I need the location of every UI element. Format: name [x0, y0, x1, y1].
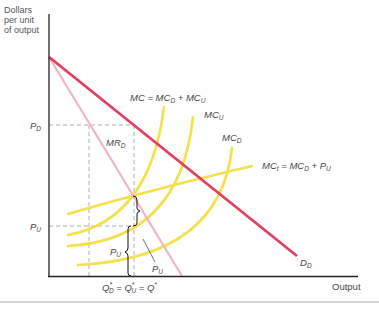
mc-downstream-curve [78, 148, 232, 265]
pu-label: PU [30, 221, 41, 233]
quantity-label: Q*D = Q*U = Q* [102, 281, 157, 294]
marginal-revenue-line [49, 57, 182, 276]
transfer-pricing-diagram: MC = MCD + MCU MCU MCD MCt = MCD + PU MR… [0, 0, 379, 310]
x-axis-label: Output [332, 281, 361, 292]
brace-upper-label: PU [152, 263, 163, 275]
brace-lower-label: PU [110, 246, 121, 258]
pd-label: PD [30, 120, 41, 132]
mc-total-label: MC = MCD + MCU [130, 92, 206, 104]
demand-label: DD [300, 257, 312, 269]
mc-downstream-label: MCD [222, 132, 242, 144]
mc-upstream-curve [68, 117, 193, 246]
mr-label: MRD [106, 137, 126, 149]
mc-upstream-label: MCU [204, 109, 224, 121]
mc-transfer-label: MCt = MCD + PU [262, 160, 331, 172]
